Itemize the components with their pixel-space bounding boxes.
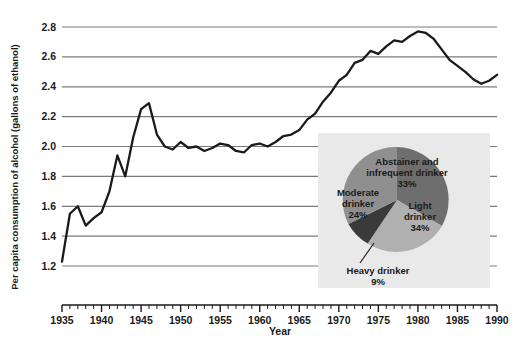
x-tick-label-1980: 1980 [406,314,430,326]
pie-label-heavy-value: 9% [371,276,385,287]
x-tick-label-1985: 1985 [446,314,470,326]
chart-canvas: Per capita consumption of alcohol (gallo… [0,0,514,351]
x-axis-title: Year [269,325,291,337]
pie-inset: Abstainer and infrequent drinker 33% Lig… [318,133,490,288]
x-tick-label-1955: 1955 [209,314,233,326]
x-tick-label-1935: 1935 [50,314,74,326]
pie-label-abstainer-value: 33% [397,178,417,189]
y-tick-2-4: 2.4 [41,80,56,92]
x-tick-label-1970: 1970 [327,314,351,326]
pie-label-light-line1: Light [408,200,432,211]
chart-figure: Per capita consumption of alcohol (gallo… [0,0,514,351]
pie-label-moderate-line1: Moderate [337,187,379,198]
x-axis-ticks [62,305,497,312]
pie-label-heavy-line1: Heavy drinker [347,265,410,276]
x-tick-label-1950: 1950 [169,314,193,326]
x-tick-label-1940: 1940 [90,314,114,326]
y-tick-2-8: 2.8 [41,21,56,33]
y-axis-title-text: Per capita consumption of alcohol (gallo… [9,44,20,289]
pie-label-light-line2: drinker [404,211,437,222]
x-tick-label-1975: 1975 [367,314,391,326]
y-tick-1-8: 1.8 [41,170,56,182]
y-tick-labels: 2.8 2.6 2.4 2.2 2.0 1.8 1.6 1.4 1.2 [41,21,56,272]
pie-label-abstainer-line2: infrequent drinker [366,167,448,178]
y-tick-2-6: 2.6 [41,50,56,62]
y-tick-1-6: 1.6 [41,200,56,212]
pie-label-moderate-value: 24% [348,209,368,220]
x-axis: 1935194019451950195519601965197019751980… [50,305,509,337]
y-tick-2-0: 2.0 [41,140,56,152]
x-tick-label-1945: 1945 [129,314,153,326]
x-tick-label-1965: 1965 [288,314,312,326]
pie-label-abstainer-line1: Abstainer and [375,156,439,167]
x-tick-label-1990: 1990 [485,314,509,326]
y-tick-1-4: 1.4 [41,230,56,242]
y-tick-1-2: 1.2 [41,260,56,272]
y-tick-2-2: 2.2 [41,110,56,122]
pie-label-moderate-line2: drinker [342,198,375,209]
y-axis-title: Per capita consumption of alcohol (gallo… [9,44,20,289]
pie-label-light-value: 34% [410,222,430,233]
